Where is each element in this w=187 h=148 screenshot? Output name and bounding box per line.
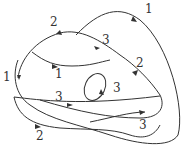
label-2-topleft: 2	[50, 15, 58, 29]
arrow-icon	[94, 46, 100, 50]
label-3-bottom: 3	[139, 118, 147, 132]
small-loop	[80, 70, 110, 104]
label-3-upper: 3	[102, 33, 110, 47]
arrow-icon	[132, 70, 138, 76]
arrow-icon	[67, 103, 73, 107]
curve-inner-1	[32, 52, 110, 66]
label-1-left: 1	[3, 70, 11, 84]
label-1-inner: 1	[55, 67, 63, 81]
curve-upper-2	[18, 32, 162, 118]
label-3-loop: 3	[113, 81, 121, 95]
label-3-middle: 3	[55, 90, 63, 104]
curve-diagram: 1 2 3 2 1 1 3 3 2 3	[0, 0, 187, 148]
label-1-top: 1	[145, 2, 153, 16]
label-2-bottom: 2	[36, 129, 44, 143]
arrow-icon	[139, 110, 145, 115]
label-2-right: 2	[136, 56, 144, 70]
